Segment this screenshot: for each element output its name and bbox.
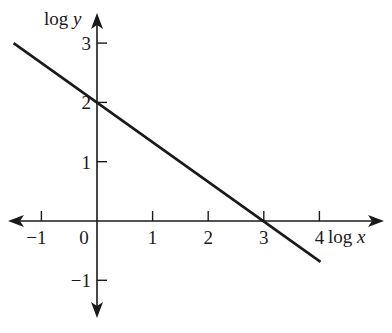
y-tick-label: 1 xyxy=(82,152,92,173)
x-tick-label: 3 xyxy=(259,227,269,248)
y-tick-label: −1 xyxy=(71,270,91,291)
y-tick-label: 3 xyxy=(82,33,92,54)
x-tick-label: 2 xyxy=(203,227,213,248)
x-axis-label: log x xyxy=(328,226,366,247)
x-tick-label: 4 xyxy=(315,227,325,248)
x-tick-label: 0 xyxy=(79,227,89,248)
x-tick-label: −1 xyxy=(26,227,46,248)
y-axis-label: log y xyxy=(44,8,82,29)
y-ticks: 321−1 xyxy=(71,33,107,291)
x-ticks: −101234 xyxy=(26,211,324,248)
data-line xyxy=(14,43,321,262)
x-tick-label: 1 xyxy=(148,227,158,248)
chart: −101234 321−1 log x log y xyxy=(0,0,392,333)
